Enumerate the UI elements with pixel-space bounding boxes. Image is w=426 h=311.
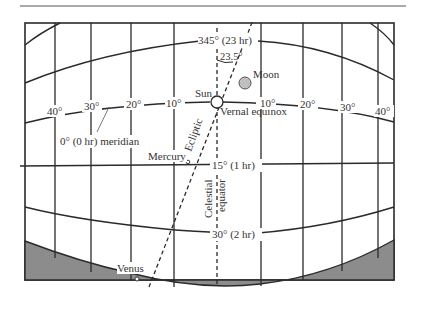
equator-label: equator <box>215 179 227 212</box>
celestial-label: Celestial <box>202 180 214 219</box>
chart-frame <box>25 23 394 280</box>
dec-right-10: 10° <box>260 97 275 109</box>
mercury-label: Mercury <box>148 150 186 162</box>
top-meridian-label: 345° (23 hr) <box>198 34 252 47</box>
dec-right-30: 30° <box>340 101 355 113</box>
venus-marker <box>135 277 139 281</box>
dec-left-20: 20° <box>126 98 141 110</box>
dec-left-40: 40° <box>47 105 62 117</box>
ecliptic-label: Ecliptic <box>182 116 205 152</box>
vernal-equinox-label: Vernal equinox <box>220 105 287 117</box>
dec-right-20: 20° <box>300 98 315 110</box>
sun-label: Sun <box>195 87 213 99</box>
meridian-15-label: 15° (1 hr) <box>212 159 255 172</box>
sky-diagram: 345° (23 hr) 23.5° Moon Sun Vernal equin… <box>0 0 426 311</box>
angle-label: 23.5° <box>220 51 243 62</box>
moon-marker <box>239 77 251 89</box>
dec-left-30: 30° <box>84 100 99 112</box>
moon-label: Moon <box>253 68 280 80</box>
venus-label: Venus <box>117 262 144 274</box>
horizon-region <box>25 240 394 286</box>
meridian-30-label: 30° (2 hr) <box>212 228 255 241</box>
dec-left-10: 10° <box>166 97 181 109</box>
zero-meridian-label: 0° (0 hr) meridian <box>60 135 140 148</box>
dec-right-40: 40° <box>375 105 390 117</box>
